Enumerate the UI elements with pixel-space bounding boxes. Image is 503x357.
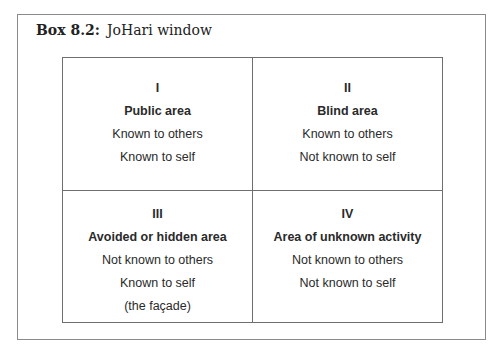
quadrant-title: Avoided or hidden area <box>63 226 252 249</box>
horizontal-divider <box>63 190 442 191</box>
quadrant-line: (the façade) <box>63 295 252 318</box>
quadrant-line: Not known to others <box>63 249 252 272</box>
quadrant-line: Not known to self <box>253 146 442 169</box>
quadrant-blind: II Blind area Known to others Not known … <box>253 77 442 169</box>
quadrant-hidden: III Avoided or hidden area Not known to … <box>63 203 252 318</box>
quadrant-numeral: III <box>63 203 252 226</box>
quadrant-line: Known to others <box>253 123 442 146</box>
quadrant-public: I Public area Known to others Known to s… <box>63 77 252 169</box>
quadrant-numeral: II <box>253 77 442 100</box>
quadrant-line: Not known to others <box>253 249 442 272</box>
box-label: Box 8.2: <box>36 22 100 38</box>
quadrant-title: Area of unknown activity <box>253 226 442 249</box>
quadrant-line: Known to self <box>63 272 252 295</box>
quadrant-numeral: I <box>63 77 252 100</box>
box-heading: Box 8.2:JoHari window <box>36 22 212 38</box>
box-title: JoHari window <box>107 22 212 38</box>
johari-grid: I Public area Known to others Known to s… <box>62 57 443 323</box>
quadrant-title: Blind area <box>253 100 442 123</box>
quadrant-numeral: IV <box>253 203 442 226</box>
quadrant-line: Not known to self <box>253 272 442 295</box>
quadrant-line: Known to self <box>63 146 252 169</box>
quadrant-line: Known to others <box>63 123 252 146</box>
quadrant-title: Public area <box>63 100 252 123</box>
quadrant-unknown: IV Area of unknown activity Not known to… <box>253 203 442 295</box>
